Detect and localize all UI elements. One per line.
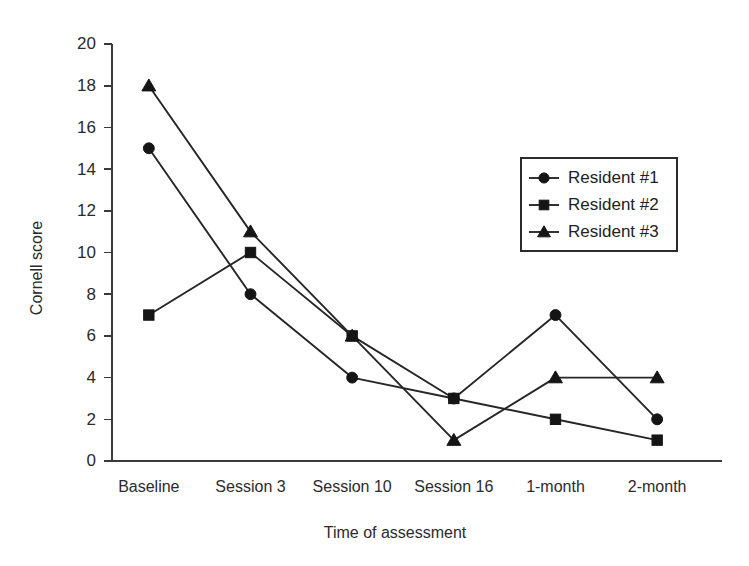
chart-legend: Resident #1Resident #2Resident #3 [521, 158, 677, 251]
y-tick-label: 16 [77, 118, 96, 137]
y-axis-ticks: 02468101214161820 [77, 34, 112, 470]
legend-item-label: Resident #3 [568, 222, 659, 241]
y-tick-label: 6 [87, 326, 96, 345]
data-point-square-marker [449, 393, 459, 403]
y-tick-label: 20 [77, 34, 96, 53]
series-3 [142, 79, 664, 445]
data-point-square-marker [550, 414, 560, 424]
y-tick-label: 0 [87, 451, 96, 470]
x-category-label: 2-month [628, 478, 687, 495]
data-point-circle-marker [347, 372, 358, 383]
y-tick-label: 4 [87, 368, 96, 387]
series-line-path [149, 86, 657, 440]
y-tick-label: 18 [77, 76, 96, 95]
data-point-triangle-marker [244, 225, 258, 237]
data-point-square-marker [652, 435, 662, 445]
y-tick-label: 8 [87, 285, 96, 304]
x-category-label: 1-month [526, 478, 585, 495]
data-point-circle-marker [652, 414, 663, 425]
x-axis-category-labels: BaselineSession 3Session 10Session 161-m… [118, 478, 686, 495]
data-point-circle-marker [539, 173, 549, 183]
x-axis-title: Time of assessment [324, 524, 467, 541]
chart-figure: 02468101214161820 BaselineSession 3Sessi… [0, 0, 749, 566]
x-category-label: Session 3 [215, 478, 285, 495]
legend-item-label: Resident #1 [568, 168, 659, 187]
series-2 [144, 247, 663, 445]
data-point-circle-marker [550, 310, 561, 321]
data-point-square-marker [144, 310, 154, 320]
x-category-label: Session 16 [414, 478, 493, 495]
plot-area: 02468101214161820 BaselineSession 3Sessi… [28, 34, 722, 541]
series-layer [142, 79, 664, 445]
x-category-label: Session 10 [313, 478, 392, 495]
y-tick-label: 14 [77, 160, 96, 179]
data-point-triangle-marker [142, 79, 156, 91]
series-line-path [149, 253, 657, 441]
legend-item-label: Resident #2 [568, 195, 659, 214]
data-point-circle-marker [245, 289, 256, 300]
line-chart-canvas: 02468101214161820 BaselineSession 3Sessi… [0, 0, 749, 566]
y-tick-label: 10 [77, 243, 96, 262]
data-point-square-marker [539, 200, 549, 210]
y-tick-label: 12 [77, 201, 96, 220]
data-point-circle-marker [143, 143, 154, 154]
y-tick-label: 2 [87, 410, 96, 429]
data-point-square-marker [245, 247, 255, 257]
x-category-label: Baseline [118, 478, 179, 495]
y-axis-title: Cornell score [28, 221, 45, 315]
